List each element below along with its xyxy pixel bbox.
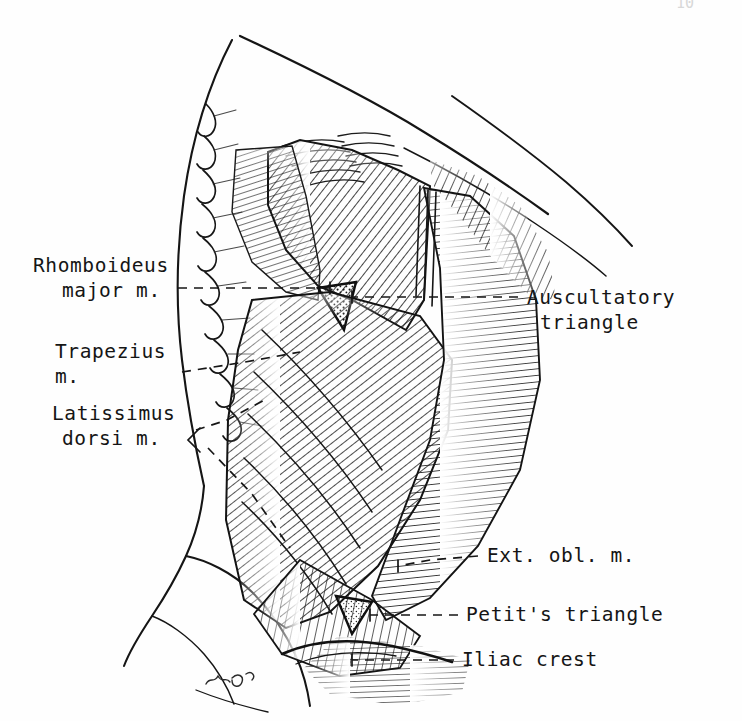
label-ext-obl-m: Ext. obl. m. — [487, 544, 635, 567]
label-rhomboideus-major-line-2: major m. — [62, 279, 161, 302]
label-iliac-crest: Iliac crest — [462, 648, 598, 671]
label-iliac-crest-line-1: Iliac crest — [462, 648, 598, 671]
label-latissimus-dorsi-line-2: dorsi m. — [62, 427, 161, 450]
label-petits-triangle-line-1: Petit's triangle — [466, 603, 663, 626]
label-rhomboideus-major-line-1: Rhomboideus — [33, 254, 169, 277]
folio-number: 10 — [676, 0, 694, 12]
label-latissimus-dorsi-line-1: Latissimus — [52, 402, 175, 425]
label-trapezius-line-2: m. — [55, 365, 80, 388]
label-ext-obl-m-line-1: Ext. obl. m. — [487, 544, 635, 567]
label-auscultatory-triangle-line-2: triangle — [540, 311, 639, 334]
plate-drawing: Rhomboideus major m. Trapezius m. Latiss… — [0, 0, 742, 721]
label-auscultatory-triangle-line-1: Auscultatory — [527, 286, 675, 309]
label-petits-triangle: Petit's triangle — [466, 603, 663, 626]
anatomical-plate: Rhomboideus major m. Trapezius m. Latiss… — [0, 0, 742, 721]
label-trapezius-line-1: Trapezius — [55, 340, 166, 363]
